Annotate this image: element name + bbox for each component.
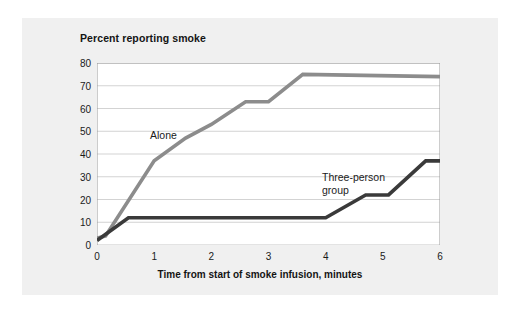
chart-title: Percent reporting smoke <box>80 32 206 44</box>
x-axis-title: Time from start of smoke infusion, minut… <box>22 269 498 280</box>
y-tick-10: 10 <box>61 217 91 228</box>
chart-plot-svg <box>97 63 440 245</box>
x-tick-2: 2 <box>201 251 221 262</box>
y-tick-80: 80 <box>61 58 91 69</box>
x-tick-0: 0 <box>87 251 107 262</box>
x-tick-3: 3 <box>259 251 279 262</box>
series-label-three-person-group: Three-person group <box>322 171 385 197</box>
y-tick-70: 70 <box>61 80 91 91</box>
series-lines <box>97 74 440 240</box>
series-line-alone <box>97 74 440 238</box>
y-tick-40: 40 <box>61 149 91 160</box>
x-tick-4: 4 <box>316 251 336 262</box>
x-tick-1: 1 <box>144 251 164 262</box>
y-tick-30: 30 <box>61 171 91 182</box>
x-tick-5: 5 <box>373 251 393 262</box>
figure-card: Percent reporting smoke 8070605040302010… <box>22 18 498 295</box>
series-label-alone: Alone <box>150 129 177 142</box>
plot-area <box>97 63 440 245</box>
x-tick-6: 6 <box>430 251 450 262</box>
y-tick-0: 0 <box>61 240 91 251</box>
y-tick-50: 50 <box>61 126 91 137</box>
y-tick-60: 60 <box>61 103 91 114</box>
y-tick-20: 20 <box>61 194 91 205</box>
